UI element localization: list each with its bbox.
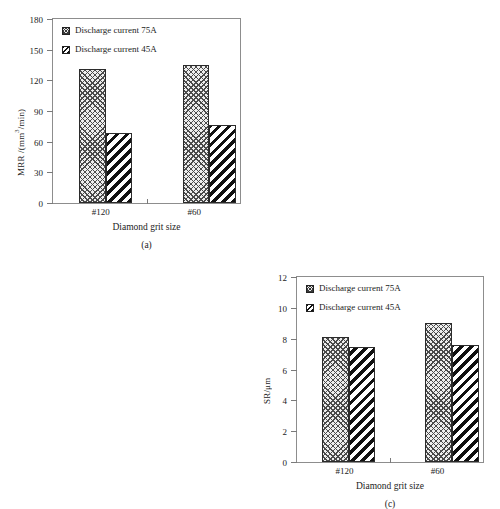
x-axis-title-a: Diamond grit size bbox=[52, 222, 241, 232]
y-axis-label-mrr-exponent: 3 bbox=[13, 129, 20, 132]
legend-swatch-crosshatch-icon bbox=[62, 27, 70, 35]
y-axis-label-mrr: MRR /(mm3/min) bbox=[16, 72, 26, 176]
bar-c-120-75A bbox=[322, 337, 349, 462]
bar-a-60-45A bbox=[209, 125, 235, 203]
legend-swatch-diagonal-icon bbox=[62, 46, 70, 54]
y-tick-label-c-0: 0 bbox=[283, 458, 288, 468]
x-axis-title-c: Diamond grit size bbox=[296, 481, 484, 491]
x-tick-text-a-60: #60 bbox=[187, 207, 201, 217]
bar-a-120-45A bbox=[106, 133, 132, 203]
y-tick-a-60: 60 bbox=[47, 142, 53, 143]
y-tick-a-120: 120 bbox=[47, 80, 53, 81]
y-axis-label-mrr-main: MRR /(mm bbox=[16, 133, 26, 176]
y-tick-label-a-30: 30 bbox=[34, 168, 43, 178]
y-tick-label-c-4: 4 bbox=[283, 396, 288, 406]
y-tick-a-0: 0 bbox=[47, 203, 53, 204]
x-tick-label-c-120: #120 bbox=[335, 466, 353, 476]
bar-c-60-45A bbox=[452, 345, 478, 462]
legend-label-c-45A: Discharge current 45A bbox=[319, 303, 401, 312]
y-tick-label-c-10: 10 bbox=[278, 304, 287, 314]
legend-c: Discharge current 75A Discharge current … bbox=[306, 284, 401, 322]
y-tick-label-c-12: 12 bbox=[278, 273, 287, 283]
legend-label-c-75A: Discharge current 75A bbox=[319, 284, 401, 293]
x-tick-a-center bbox=[147, 199, 148, 204]
y-tick-a-180: 180 bbox=[47, 19, 53, 20]
chart-panel-c: SR/μm 0 2 4 6 8 10 12 #120 #60 Dis bbox=[122, 258, 372, 509]
y-tick-label-c-8: 8 bbox=[283, 335, 288, 345]
y-tick-label-a-150: 150 bbox=[30, 46, 44, 56]
y-tick-c-4: 4 bbox=[291, 400, 297, 401]
y-tick-label-a-180: 180 bbox=[30, 15, 44, 25]
panel-caption-c: (c) bbox=[296, 499, 484, 509]
bar-a-60-75A bbox=[183, 65, 210, 203]
y-tick-label-c-2: 2 bbox=[283, 427, 288, 437]
y-tick-c-12: 12 bbox=[291, 277, 297, 278]
bar-a-120-75A bbox=[79, 69, 106, 203]
bar-c-60-75A bbox=[425, 323, 452, 462]
chart-panel-b: TWR /% 0 10 20 30 40 50 60 #120 #60 bbox=[252, 0, 500, 252]
x-tick-c-center bbox=[390, 458, 391, 463]
y-tick-c-0: 0 bbox=[291, 462, 297, 463]
y-tick-c-6: 6 bbox=[291, 370, 297, 371]
x-tick-label-c-60: #60 bbox=[431, 466, 445, 476]
y-tick-a-90: 90 bbox=[47, 111, 53, 112]
legend-label-a-45A: Discharge current 45A bbox=[75, 45, 157, 54]
y-tick-label-c-6: 6 bbox=[283, 366, 288, 376]
panel-caption-a: (a) bbox=[52, 240, 241, 250]
legend-a: Discharge current 75A Discharge current … bbox=[62, 26, 157, 64]
legend-item-a-45A: Discharge current 45A bbox=[62, 45, 157, 54]
legend-label-a-75A: Discharge current 75A bbox=[75, 26, 157, 35]
x-tick-text-a-120: #120 bbox=[92, 207, 110, 217]
y-tick-c-8: 8 bbox=[291, 339, 297, 340]
y-axis-label-sr: SR/μm bbox=[262, 348, 272, 404]
x-tick-text-c-120: #120 bbox=[335, 466, 353, 476]
legend-swatch-crosshatch-icon bbox=[306, 285, 314, 293]
x-tick-label-a-60: #60 bbox=[187, 207, 201, 217]
legend-swatch-diagonal-icon bbox=[306, 304, 314, 312]
y-tick-c-10: 10 bbox=[291, 308, 297, 309]
y-tick-label-a-120: 120 bbox=[30, 76, 44, 86]
y-axis-label-mrr-tail: /min) bbox=[16, 109, 26, 130]
y-tick-a-150: 150 bbox=[47, 50, 53, 51]
legend-item-c-75A: Discharge current 75A bbox=[306, 284, 401, 293]
chart-panel-a: MRR /(mm3/min) 0 30 60 90 120 150 180 #1… bbox=[0, 0, 250, 252]
legend-item-a-75A: Discharge current 75A bbox=[62, 26, 157, 35]
legend-item-c-45A: Discharge current 45A bbox=[306, 303, 401, 312]
x-tick-text-c-60: #60 bbox=[431, 466, 445, 476]
y-tick-c-2: 2 bbox=[291, 431, 297, 432]
y-tick-label-a-0: 0 bbox=[39, 199, 44, 209]
y-tick-label-a-90: 90 bbox=[34, 107, 43, 117]
x-tick-label-a-120: #120 bbox=[92, 207, 110, 217]
bar-c-120-45A bbox=[349, 347, 375, 462]
y-tick-label-a-60: 60 bbox=[34, 138, 43, 148]
y-tick-a-30: 30 bbox=[47, 172, 53, 173]
